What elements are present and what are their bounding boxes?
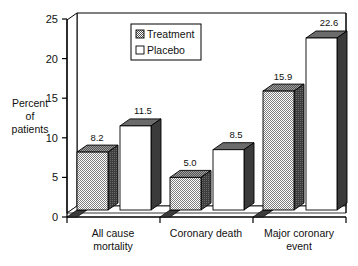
- legend-label-treatment: Treatment: [147, 28, 195, 40]
- chart-canvas: 25 20 15 10 5 0: [0, 0, 358, 266]
- x-category-label: All cause: [92, 227, 135, 239]
- bar-value-label: 8.5: [229, 129, 242, 140]
- y-axis-title-line-1: Percent: [12, 97, 48, 109]
- bar-value-label: 5.0: [183, 157, 196, 168]
- bar-value-label: 11.5: [134, 105, 152, 116]
- legend-label-placebo: Placebo: [147, 44, 185, 56]
- legend-swatch-treatment: [136, 30, 144, 38]
- bar-side-face: [151, 119, 161, 210]
- legend-swatch-placebo: [136, 46, 144, 54]
- y-tick-label: 0: [52, 211, 58, 223]
- chart-legend: Treatment Placebo: [131, 24, 201, 60]
- y-tick-label: 25: [46, 13, 58, 25]
- x-category-label: event: [286, 240, 312, 252]
- bar-front-face: [306, 38, 337, 210]
- bar-side-face: [108, 145, 118, 210]
- x-category-label: mortality: [93, 240, 133, 252]
- y-axis-title-line-2: of: [26, 110, 35, 122]
- bar-front-face: [120, 126, 151, 210]
- bar-side-face: [294, 84, 304, 210]
- bar-front-face: [170, 177, 201, 210]
- bar-side-face: [244, 143, 254, 210]
- y-axis-title-line-3: patients: [12, 123, 49, 135]
- bar-placebo-major-coronary-event[interactable]: 22.6: [306, 17, 347, 210]
- bar-side-face: [337, 31, 347, 210]
- bar-value-label: 22.6: [320, 17, 339, 28]
- legend-item-placebo[interactable]: Placebo: [136, 44, 185, 56]
- y-tick-label: 5: [52, 171, 58, 183]
- bar-front-face: [263, 91, 294, 210]
- bar-treatment-major-coronary-event[interactable]: 15.9: [263, 71, 304, 210]
- bar-side-face: [201, 170, 211, 210]
- bar-chart: 25 20 15 10 5 0: [0, 0, 358, 266]
- x-category-label: Major coronary: [264, 227, 335, 239]
- bar-value-label: 8.2: [90, 132, 103, 143]
- y-tick-label: 20: [46, 53, 58, 65]
- x-category-label: Coronary death: [170, 227, 243, 239]
- bar-front-face: [213, 150, 244, 210]
- bar-value-label: 15.9: [274, 71, 293, 82]
- bar-front-face: [77, 152, 108, 210]
